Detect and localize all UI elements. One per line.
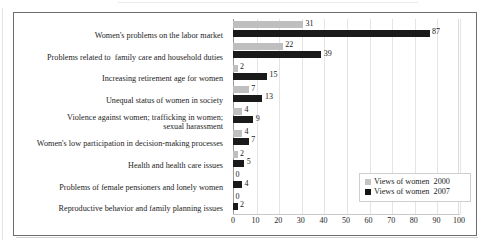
category-label: Increasing retirement age for women [102, 74, 223, 84]
x-tick-label: 30 [297, 216, 305, 225]
x-tick-label: 60 [365, 216, 373, 225]
bar-2007 [233, 73, 267, 80]
bar-value-label: 7 [251, 136, 255, 144]
bar-value-label: 0 [236, 193, 240, 201]
bar-2007 [233, 138, 249, 145]
bar-2000 [233, 21, 303, 28]
x-tick-label: 40 [319, 216, 327, 225]
bar-value-label: 4 [245, 106, 249, 114]
scan-artifact-top [118, 2, 418, 3]
bar-value-label: 39 [324, 50, 332, 58]
x-axis-ticks: 0102030405060708090100 [233, 216, 459, 230]
bar-value-label: 2 [240, 63, 244, 71]
legend-item-2007: Views of women 2007 [365, 187, 466, 197]
x-tick-label: 20 [274, 216, 282, 225]
legend-label-2000: Views of women 2000 [374, 177, 450, 187]
bar-2000 [233, 86, 249, 93]
bar-2007 [233, 30, 430, 37]
category-label: Unequal status of women in society [106, 96, 223, 106]
bar-value-label: 13 [265, 93, 273, 101]
bar-value-label: 4 [245, 180, 249, 188]
bar-2000 [233, 43, 283, 50]
bar-2007 [233, 95, 262, 102]
bar-2007 [233, 203, 238, 210]
category-label: Health and health care issues [128, 161, 223, 171]
bar-2000 [233, 108, 242, 115]
gridline [302, 19, 303, 214]
bar-2000 [233, 151, 238, 158]
category-label: Reproductive behavior and family plannin… [59, 204, 223, 214]
bar-2000 [233, 130, 242, 137]
category-label: Problems of female pensioners and lonely… [59, 183, 223, 193]
bar-value-label: 2 [240, 201, 244, 209]
category-label: Problems related to family care and hous… [47, 53, 223, 63]
bar-value-label: 5 [247, 158, 251, 166]
x-tick-label: 90 [432, 216, 440, 225]
bar-2007 [233, 160, 244, 167]
scan-artifact-left [2, 8, 3, 240]
category-label: Women's problems on the labor market [95, 31, 223, 41]
bar-2007 [233, 51, 321, 58]
bar-value-label: 15 [269, 71, 277, 79]
bar-value-label: 9 [256, 115, 260, 123]
legend-label-2007: Views of women 2007 [374, 187, 450, 197]
category-label: Violence against women; trafficking in w… [67, 113, 223, 132]
bar-value-label: 87 [432, 28, 440, 36]
x-tick-label: 70 [387, 216, 395, 225]
bar-chart: Women's problems on the labor marketProb… [14, 13, 476, 235]
category-label-column: Women's problems on the labor marketProb… [20, 19, 229, 214]
bar-value-label: 0 [236, 171, 240, 179]
bar-value-label: 2 [240, 150, 244, 158]
frame-shadow [16, 237, 478, 238]
bar-2007 [233, 181, 242, 188]
legend-swatch-2000 [365, 179, 371, 185]
bar-value-label: 31 [306, 20, 314, 28]
x-tick-label: 50 [342, 216, 350, 225]
x-tick-label: 10 [252, 216, 260, 225]
chart-legend: Views of women 2000 Views of women 2007 [359, 173, 471, 202]
bar-value-label: 4 [245, 128, 249, 136]
gridline [347, 19, 348, 214]
legend-swatch-2007 [365, 189, 371, 195]
x-axis-line [233, 214, 460, 215]
x-tick-label: 0 [231, 216, 235, 225]
legend-item-2000: Views of women 2000 [365, 177, 466, 187]
bar-value-label: 22 [285, 41, 293, 49]
chart-frame: Women's problems on the labor marketProb… [13, 12, 477, 236]
bar-2007 [233, 116, 253, 123]
category-label: Women's low participation in decision-ma… [37, 139, 223, 149]
bar-value-label: 7 [251, 85, 255, 93]
x-tick-label: 100 [453, 216, 465, 225]
bar-2000 [233, 65, 238, 72]
x-tick-label: 80 [410, 216, 418, 225]
